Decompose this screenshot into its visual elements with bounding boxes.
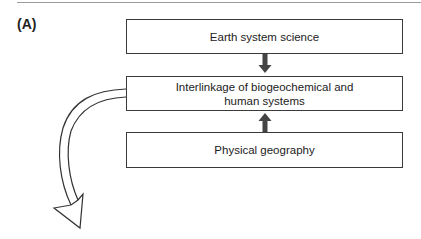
up-arrow-icon: [259, 113, 272, 132]
arrows-layer: [0, 0, 421, 239]
curved-hollow-arrow-icon: [54, 89, 126, 228]
down-arrow-icon: [259, 54, 272, 73]
